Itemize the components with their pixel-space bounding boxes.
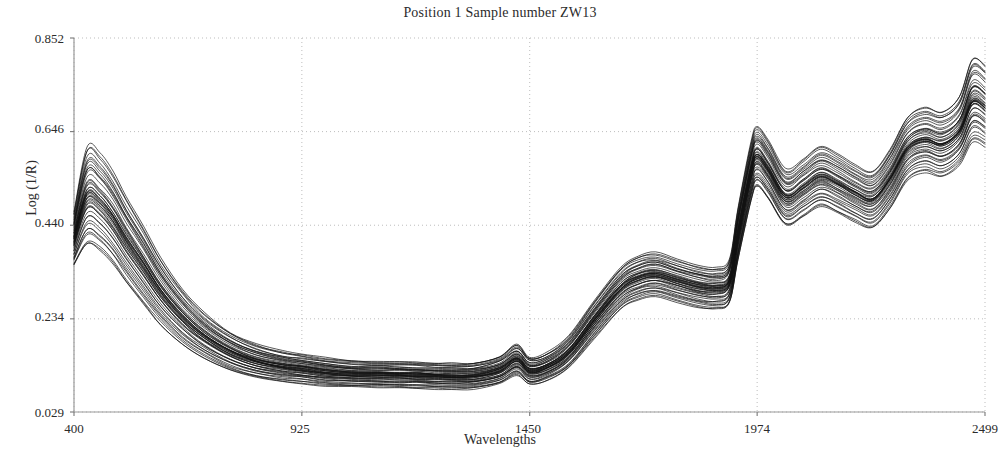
spectra-lines xyxy=(74,58,985,390)
plot-canvas xyxy=(0,0,1000,455)
spectra-figure: Position 1 Sample number ZW13 Log (1/R) … xyxy=(0,0,1000,455)
spectrum-line xyxy=(74,93,985,374)
